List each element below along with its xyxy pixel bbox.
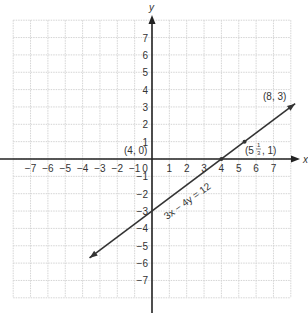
point2-frac-num: 1 xyxy=(257,142,261,148)
y-tick-label: −7 xyxy=(137,275,149,286)
point-label-8-3: (8, 3) xyxy=(263,91,286,102)
point-marker xyxy=(243,140,247,144)
x-axis-arrow-icon xyxy=(291,156,300,163)
coordinate-plane: x y −7−6−5−4−3−2−1012345677654321−1−2−3−… xyxy=(0,0,308,314)
x-tick-label: −3 xyxy=(94,163,106,174)
y-tick-label: −6 xyxy=(137,258,149,269)
x-tick-label: 5 xyxy=(236,163,242,174)
y-axis-label: y xyxy=(148,2,155,13)
point2-frac-den: 3 xyxy=(257,150,261,156)
y-tick-label: 6 xyxy=(142,50,148,61)
x-tick-label: −6 xyxy=(42,163,54,174)
y-tick-label: 4 xyxy=(142,85,148,96)
x-tick-label: 1 xyxy=(167,163,173,174)
y-tick-label: −4 xyxy=(137,223,149,234)
point2-whole: (5 xyxy=(245,145,254,156)
series-line xyxy=(90,104,296,258)
x-tick-label: 6 xyxy=(253,163,259,174)
annotations: (4, 0) (5 1 3 , 1) (8, 3) 3x − 4y = 12 xyxy=(124,91,286,222)
line-3x-4y-12 xyxy=(90,104,296,258)
x-tick-label: 4 xyxy=(219,163,225,174)
x-tick-label: −7 xyxy=(25,163,37,174)
y-tick-label: −5 xyxy=(137,241,149,252)
x-tick-label: 2 xyxy=(184,163,190,174)
y-tick-label: 3 xyxy=(142,102,148,113)
point-label-4-0: (4, 0) xyxy=(124,145,147,156)
y-tick-label: −2 xyxy=(137,189,149,200)
x-tick-label: −5 xyxy=(60,163,72,174)
y-tick-label: −1 xyxy=(137,171,149,182)
x-tick-label: −4 xyxy=(77,163,89,174)
x-tick-label: −2 xyxy=(112,163,124,174)
point-label-5-third-1: (5 xyxy=(245,145,254,156)
axes: x y xyxy=(0,2,308,313)
point2-rest: , 1) xyxy=(262,145,276,156)
x-tick-label: 7 xyxy=(271,163,277,174)
x-axis-label: x xyxy=(302,154,308,165)
y-tick-label: 2 xyxy=(142,119,148,130)
y-tick-label: 7 xyxy=(142,33,148,44)
point-marker xyxy=(219,157,223,161)
y-tick-label: 5 xyxy=(142,67,148,78)
y-axis-arrow-icon xyxy=(149,15,156,24)
